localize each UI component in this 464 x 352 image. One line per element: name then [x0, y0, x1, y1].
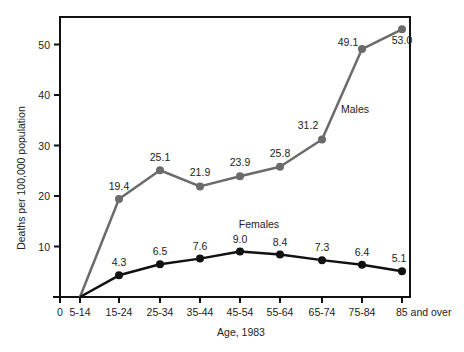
- y-tick-label: 20: [38, 190, 50, 202]
- data-label: 25.8: [270, 147, 291, 159]
- data-point: [115, 195, 123, 203]
- data-label: 21.9: [190, 166, 211, 178]
- y-tick-label: 50: [38, 39, 50, 51]
- y-tick-label: 10: [38, 241, 50, 253]
- x-tick-label: 0: [57, 306, 63, 318]
- data-label: 49.1: [338, 36, 359, 48]
- data-label: 9.0: [233, 233, 248, 245]
- y-tick-label: 30: [38, 140, 50, 152]
- series-line: [80, 252, 402, 297]
- data-point: [358, 261, 366, 269]
- data-label: 8.4: [273, 236, 288, 248]
- x-tick-label: 65-74: [309, 306, 336, 318]
- y-axis: 1020304050: [38, 39, 60, 253]
- data-label: 25.1: [150, 151, 171, 163]
- x-tick-label: 45-54: [227, 306, 254, 318]
- data-label: 7.3: [315, 241, 330, 253]
- data-point: [236, 172, 244, 180]
- data-point: [156, 260, 164, 268]
- x-tick-label: 15-24: [106, 306, 133, 318]
- data-label: 31.2: [298, 119, 319, 131]
- data-label: 5.1: [392, 252, 407, 264]
- data-point: [318, 135, 326, 143]
- x-tick-label: 5-14: [69, 306, 90, 318]
- data-label: 6.4: [355, 246, 370, 258]
- series-name-females: Females: [239, 218, 279, 230]
- data-label: 53.0: [392, 34, 413, 46]
- x-tick-label: 85 and over: [396, 306, 452, 318]
- data-point: [156, 166, 164, 174]
- data-point: [236, 248, 244, 256]
- y-axis-title: Deaths per 100,000 population: [15, 106, 27, 250]
- data-point: [196, 255, 204, 263]
- data-label: 4.3: [112, 256, 127, 268]
- data-point: [196, 182, 204, 190]
- data-label: 6.5: [153, 245, 168, 257]
- x-tick-label: 25-34: [147, 306, 174, 318]
- line-chart: 1020304050 05-1415-2425-3435-4445-5455-6…: [0, 0, 464, 352]
- x-axis-title: Age, 1983: [217, 326, 265, 338]
- data-point: [276, 251, 284, 259]
- series-name-males: Males: [341, 103, 369, 115]
- data-point: [398, 25, 406, 33]
- y-tick-label: 40: [38, 89, 50, 101]
- data-point: [115, 271, 123, 279]
- x-tick-label: 75-84: [349, 306, 376, 318]
- x-tick-label: 55-64: [267, 306, 294, 318]
- data-label: 23.9: [230, 156, 251, 168]
- data-point: [276, 163, 284, 171]
- x-tick-label: 35-44: [187, 306, 214, 318]
- series-layer: 19.425.121.923.925.831.249.153.04.36.57.…: [80, 25, 412, 297]
- series-females: 4.36.57.69.08.47.36.45.1: [80, 233, 406, 297]
- data-label: 19.4: [109, 180, 130, 192]
- data-point: [318, 256, 326, 264]
- x-axis: 05-1415-2425-3435-4445-5455-6465-7475-84…: [57, 297, 452, 318]
- data-label: 7.6: [193, 240, 208, 252]
- data-point: [358, 45, 366, 53]
- data-point: [398, 267, 406, 275]
